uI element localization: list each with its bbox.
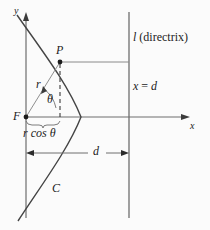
directrix-word: (directrix) [139, 30, 188, 44]
directrix-equation-equals: = [138, 79, 151, 93]
point-p-label: P [56, 44, 63, 56]
directrix-equation: x = d [133, 80, 157, 92]
focus-point-marker [24, 115, 29, 120]
x-axis-label: x [190, 121, 194, 131]
focus-label: F [13, 110, 20, 122]
directrix-label: l (directrix) [133, 31, 188, 43]
radius-label: r [36, 78, 41, 90]
directrix-equation-d: d [151, 79, 157, 93]
x-axis [26, 114, 190, 120]
curve-c-label: C [52, 182, 60, 194]
theta-label: θ [47, 93, 53, 105]
r-cos-theta-label: r cos θ [23, 127, 56, 139]
d-dimension-line [26, 150, 129, 156]
y-axis-label: y [14, 6, 18, 16]
curve-point-marker [58, 60, 63, 65]
distance-d-label: d [93, 145, 99, 157]
figure-canvas: y x F P r θ r cos θ d C l (directrix) x … [0, 0, 210, 230]
